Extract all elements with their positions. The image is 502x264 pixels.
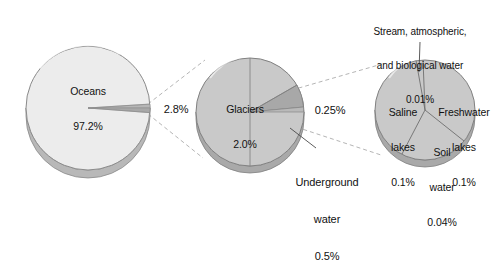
label-all-other-water: 2.8% — [150, 103, 202, 115]
label-glaciers-value: 2.0% — [198, 139, 292, 151]
label-underground-line1: Underground — [282, 176, 372, 188]
label-soil-line2: water — [412, 182, 472, 194]
label-underground-line2: water — [282, 213, 372, 225]
label-glaciers-name: Glaciers — [198, 104, 292, 116]
label-freshwater-line1: Freshwater — [430, 107, 498, 119]
label-saline-line1: Saline — [375, 107, 431, 119]
label-stream-line1: Stream, atmospheric, — [336, 26, 502, 37]
label-soil-line1: Soil — [412, 147, 472, 159]
label-oceans-name: Oceans — [36, 86, 140, 98]
label-oceans: Oceans 97.2% — [36, 62, 140, 156]
label-soil-value: 0.04% — [412, 217, 472, 229]
label-oceans-value: 97.2% — [36, 121, 140, 133]
label-underground-water: Underground water 0.5% — [282, 151, 372, 264]
label-glaciers: Glaciers 2.0% — [198, 80, 292, 174]
label-underground-value: 0.5% — [282, 250, 372, 262]
label-soil-water: Soil water 0.04% — [412, 123, 472, 252]
label-stream-line2: and biological water — [336, 60, 502, 71]
